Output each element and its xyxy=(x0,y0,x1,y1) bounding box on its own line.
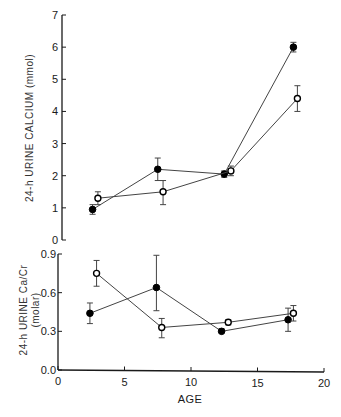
top-y-tick-label: 4 xyxy=(52,105,58,117)
filled-circle-marker xyxy=(290,44,297,51)
open-circle-marker xyxy=(228,168,234,174)
filled-circle-marker xyxy=(285,316,292,323)
filled-circle-marker xyxy=(153,284,160,291)
bottom-y-tick-label: 0.6 xyxy=(41,287,56,299)
open-circle-marker xyxy=(160,189,166,195)
top-y-ticks: 01234567 xyxy=(52,9,66,246)
top-y-axis-title: 24-h URINE CALCIUM (mmol) xyxy=(24,54,35,202)
x-axis-title: AGE xyxy=(178,393,203,405)
x-tick-label: 15 xyxy=(251,377,263,389)
x-tick-label: 5 xyxy=(121,376,127,388)
bottom-y-ticks: 0.00.30.60.9 xyxy=(41,248,62,376)
top-y-tick-label: 2 xyxy=(52,170,58,182)
top-panel: 01234567 24-h URINE CALCIUM (mmol) xyxy=(24,9,300,246)
bottom-y-tick-label: 0.3 xyxy=(41,325,56,337)
x-tick-label: 20 xyxy=(318,377,330,389)
open-circle-marker xyxy=(290,310,296,316)
bottom-y-tick-label: 0.0 xyxy=(41,364,56,376)
top-y-tick-label: 1 xyxy=(52,202,58,214)
open-circle-marker xyxy=(95,195,101,201)
bottom-y-axis-title-line2: (molar) xyxy=(30,292,41,327)
open-circle-marker xyxy=(294,96,300,102)
top-y-tick-label: 7 xyxy=(52,9,58,21)
age-urine-calcium-chart: 01234567 24-h URINE CALCIUM (mmol) 0.00.… xyxy=(0,0,341,417)
top-y-tick-label: 6 xyxy=(52,41,58,53)
filled-circle-marker xyxy=(89,206,96,213)
filled-circle-marker xyxy=(154,166,161,173)
top-y-tick-label: 3 xyxy=(52,138,58,150)
filled-circle-marker xyxy=(218,328,225,335)
top-y-tick-label: 5 xyxy=(52,73,58,85)
open-circle-marker xyxy=(225,319,231,325)
series-line xyxy=(90,288,288,332)
x-tick-label: 0 xyxy=(55,375,61,387)
bottom-y-axis-title-line1: 24-h URINE Ca/Cr xyxy=(18,264,29,355)
bottom-series xyxy=(87,255,297,337)
x-ticks: 05101520 xyxy=(55,366,330,389)
series-line xyxy=(93,47,294,209)
open-circle-marker xyxy=(94,270,100,276)
top-series xyxy=(89,42,300,214)
series-line xyxy=(97,273,294,327)
x-tick-label: 10 xyxy=(185,376,197,388)
top-y-tick-label: 0 xyxy=(52,234,58,246)
bottom-panel: 0.00.30.60.9 05101520 24-h URINE Ca/Cr (… xyxy=(18,248,330,405)
series-line xyxy=(98,99,298,199)
bottom-y-tick-label: 0.9 xyxy=(41,248,56,260)
open-circle-marker xyxy=(159,324,165,330)
filled-circle-marker xyxy=(87,310,94,317)
